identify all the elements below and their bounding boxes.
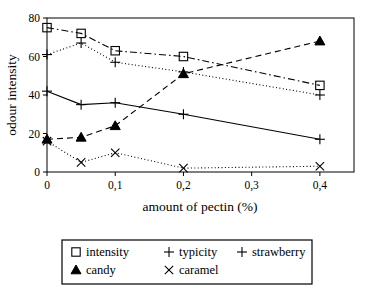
x-axis: 00,10,20,30,4 <box>44 172 327 192</box>
marker-typicity <box>178 109 188 119</box>
x-tick-label: 0,3 <box>244 179 259 192</box>
marker-caramel <box>77 158 85 166</box>
legend-label-strawberry: strawberry <box>252 245 306 259</box>
line-chart: 020406080 00,10,20,30,4 amount of pectin… <box>0 0 374 301</box>
legend-marker-typicity <box>164 247 174 257</box>
marker-candy <box>178 69 188 78</box>
series-line-candy <box>47 41 320 139</box>
legend-item-strawberry[interactable]: strawberry <box>237 245 306 259</box>
series-typicity <box>42 86 325 144</box>
legend-label-caramel: caramel <box>179 263 219 277</box>
y-axis: 020406080 <box>29 12 48 178</box>
marker-typicity <box>110 98 120 108</box>
y-tick-label: 20 <box>29 128 41 140</box>
x-tick-label: 0,1 <box>108 179 123 192</box>
x-axis-title: amount of pectin (%) <box>142 199 257 214</box>
y-axis-title: odour intensity <box>4 54 19 136</box>
plot-frame <box>47 18 354 172</box>
marker-strawberry <box>42 50 52 60</box>
legend-entries: intensitytypicitystrawberrycandycaramel <box>71 245 306 277</box>
legend-label-candy: candy <box>86 263 117 277</box>
legend-item-intensity[interactable]: intensity <box>72 245 130 259</box>
marker-strawberry <box>110 57 120 67</box>
marker-caramel <box>179 164 187 172</box>
marker-typicity <box>315 134 325 144</box>
legend-marker-caramel <box>165 266 173 274</box>
x-tick-label: 0,2 <box>176 179 191 192</box>
marker-typicity <box>76 100 86 110</box>
data-series-group <box>42 23 325 172</box>
y-tick-label: 0 <box>34 166 40 178</box>
y-tick-label: 80 <box>29 12 41 24</box>
marker-candy <box>76 132 86 141</box>
y-tick-label: 60 <box>29 51 41 63</box>
chart-figure: 020406080 00,10,20,30,4 amount of pectin… <box>0 0 374 301</box>
marker-caramel <box>111 149 119 157</box>
series-caramel <box>43 137 324 172</box>
marker-candy <box>315 36 325 45</box>
marker-strawberry <box>76 38 86 48</box>
series-intensity <box>43 23 324 89</box>
series-line-caramel <box>47 141 320 168</box>
legend-label-intensity: intensity <box>86 245 130 259</box>
chart-legend: intensitytypicitystrawberrycandycaramel <box>62 240 312 284</box>
legend-marker-candy <box>71 265 81 274</box>
legend-item-typicity[interactable]: typicity <box>164 245 218 259</box>
marker-strawberry <box>315 90 325 100</box>
legend-label-typicity: typicity <box>179 245 218 259</box>
x-tick-label: 0,4 <box>313 179 328 192</box>
legend-item-candy[interactable]: candy <box>71 263 117 277</box>
marker-intensity <box>316 81 324 89</box>
legend-item-caramel[interactable]: caramel <box>165 263 219 277</box>
legend-marker-intensity <box>72 248 80 256</box>
marker-candy <box>110 121 120 130</box>
x-tick-label: 0 <box>44 179 50 191</box>
legend-marker-strawberry <box>237 247 247 257</box>
y-tick-label: 40 <box>29 89 41 101</box>
